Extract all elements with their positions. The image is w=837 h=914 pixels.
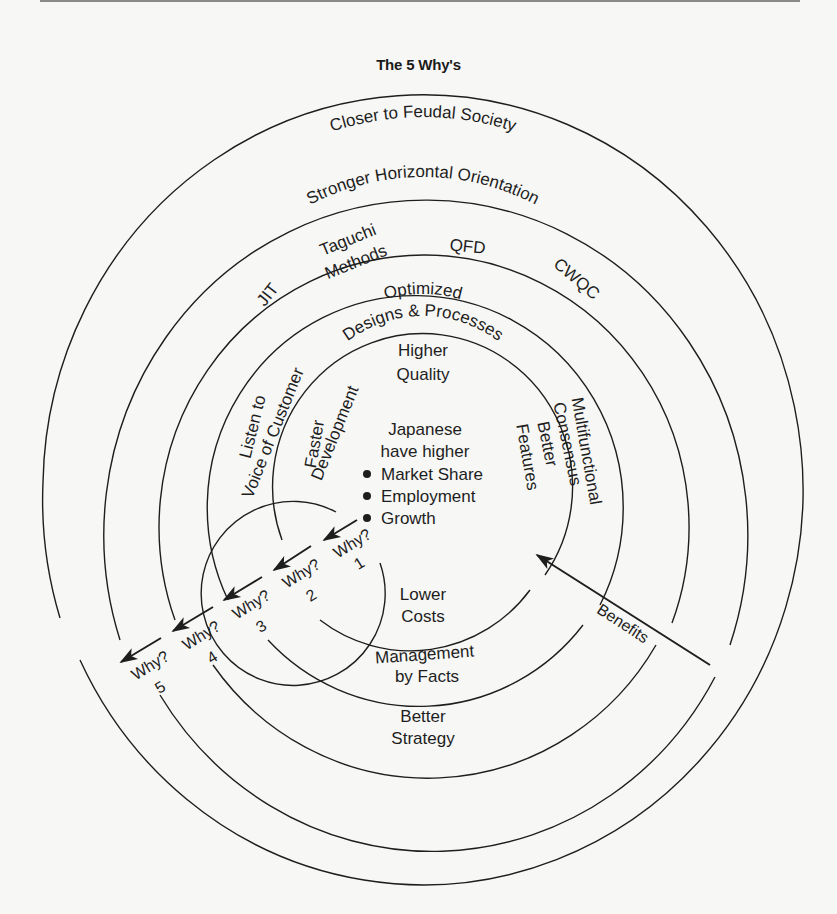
- label-stronger-horizontal-orientation: Stronger Horizontal Orientation: [304, 162, 543, 208]
- why-label-3: Why?: [229, 586, 273, 622]
- label-cwqc: CWQC: [550, 254, 603, 303]
- bullet-icon: [363, 470, 371, 478]
- center-bullet-growth: Growth: [381, 509, 436, 528]
- five-whys-diagram: Closer to Feudal Society Stronger Horizo…: [0, 0, 837, 914]
- label-quality: Quality: [397, 365, 450, 384]
- label-higher: Higher: [398, 341, 448, 360]
- label-jit: JIT: [253, 279, 283, 309]
- label-by-facts: by Facts: [395, 667, 459, 686]
- why-number-5: 5: [152, 678, 169, 697]
- center-bullet-employment: Employment: [381, 487, 476, 506]
- why-number-3: 3: [253, 617, 270, 636]
- why-number-2: 2: [303, 586, 320, 605]
- label-qfd: QFD: [449, 235, 487, 258]
- center-line-japanese: Japanese: [388, 420, 462, 439]
- ring-5: [160, 677, 715, 851]
- center-bullet-market-share: Market Share: [381, 465, 483, 484]
- label-closer-to-feudal-society: Closer to Feudal Society: [327, 102, 519, 135]
- bullet-icon: [363, 492, 371, 500]
- why-number-1: 1: [351, 554, 368, 573]
- label-designs-processes: Designs & Processes: [339, 301, 507, 345]
- why-label-1: Why?: [330, 525, 374, 561]
- label-better-strategy-1: Better: [400, 707, 446, 726]
- bullet-icon: [363, 514, 371, 522]
- label-better-strategy-2: Strategy: [391, 729, 455, 748]
- why-number-4: 4: [204, 648, 221, 667]
- label-management: Management: [374, 642, 475, 668]
- label-costs: Costs: [401, 607, 444, 626]
- ring-6-gap-fill: [43, 482, 60, 618]
- center-line-have-higher: have higher: [381, 442, 470, 461]
- label-lower: Lower: [400, 585, 447, 604]
- why-label-2: Why?: [279, 555, 323, 591]
- label-optimized: Optimized: [382, 279, 465, 303]
- ring-3: [268, 625, 583, 706]
